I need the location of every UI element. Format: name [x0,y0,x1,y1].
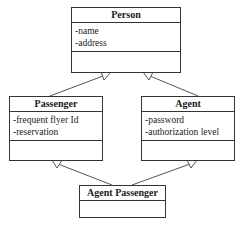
class-name: Agent Passenger [80,186,165,201]
attribute: -reservation [13,126,102,138]
class-attributes: -password -authorization level [142,112,234,141]
generalization-arrow-icon [52,160,62,168]
generalization-arrow-icon [143,72,153,80]
attribute: -name [75,25,180,37]
class-attributes: -name -address [72,23,180,52]
class-name: Agent [142,97,234,112]
attribute: -authorization level [145,126,234,138]
generalization-arrow-icon [187,160,197,168]
class-name: Person [72,8,180,23]
edge-agentpassenger-passenger [58,164,112,185]
attribute: -address [75,37,180,49]
class-agent[interactable]: Agent -password -authorization level [141,96,235,161]
generalization-arrow-icon [101,72,111,80]
class-agent-passenger[interactable]: Agent Passenger [79,185,166,218]
edge-agent-person [150,76,198,96]
edge-agentpassenger-agent [132,164,190,185]
attribute: -password [145,114,234,126]
class-passenger[interactable]: Passenger -frequent flyer Id -reservatio… [9,96,103,161]
class-person[interactable]: Person -name -address [71,7,181,73]
class-name: Passenger [10,97,102,112]
class-attributes: -frequent flyer Id -reservation [10,112,102,141]
edge-passenger-person [50,76,103,96]
attribute: -frequent flyer Id [13,114,102,126]
